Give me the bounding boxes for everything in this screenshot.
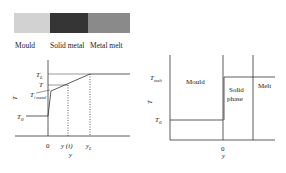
- region-solid-line2: phase: [227, 95, 243, 103]
- label-t-0: T0: [17, 113, 24, 122]
- left-plot-labels: T TL T Ti metal T0 0 y (t) yL y: [11, 71, 92, 159]
- right-x-label: y: [221, 152, 226, 160]
- label-t: T: [39, 81, 44, 89]
- left-x-label: y: [68, 151, 73, 159]
- region-melt: Melt: [258, 82, 271, 90]
- right-plot-labels: T Tmelt T0 Mould Solid phase Melt 0 y: [146, 74, 271, 160]
- label-t-melt: Tmelt: [150, 74, 162, 83]
- left-solid-gradient: [51, 74, 90, 91]
- right-plot: [170, 55, 275, 140]
- label-x-0: 0: [46, 142, 50, 150]
- label-y-t: y (t): [60, 142, 73, 150]
- region-solid-line1: Solid: [229, 86, 244, 94]
- diagram-canvas: T TL T Ti metal T0 0 y (t) yL y T Tmelt …: [0, 0, 286, 173]
- label-y-l: yL: [85, 142, 92, 151]
- label-right-t-0: T0: [155, 116, 162, 125]
- left-interface-rise: [48, 91, 51, 116]
- region-mould: Mould: [186, 78, 205, 86]
- left-y-label: T: [11, 95, 19, 100]
- right-y-label: T: [146, 99, 154, 104]
- label-t-l: TL: [36, 71, 43, 80]
